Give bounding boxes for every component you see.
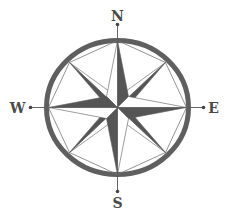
point-w-light — [49, 108, 118, 119]
label-west: W — [9, 100, 26, 116]
point-n-light — [107, 41, 118, 108]
dot-west — [29, 106, 33, 110]
label-south: S — [112, 195, 122, 211]
compass-rose-figure: N S W E — [0, 0, 227, 221]
point-s-light — [118, 108, 129, 175]
point-e-light — [118, 97, 187, 108]
point-s-dark — [107, 108, 118, 175]
dot-east — [202, 106, 206, 110]
dot-south — [116, 190, 120, 194]
label-east: E — [208, 100, 219, 116]
point-w-dark — [49, 97, 118, 108]
point-n-dark — [118, 41, 129, 108]
label-north: N — [111, 8, 124, 24]
point-e-dark — [118, 108, 187, 119]
